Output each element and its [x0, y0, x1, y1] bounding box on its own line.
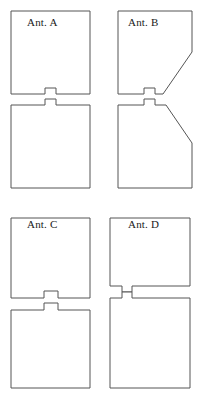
antenna-panel-c: Ant. C [0, 202, 100, 404]
antenna-diagram-d [100, 202, 200, 404]
antenna-panel-d: Ant. D [100, 202, 200, 404]
antenna-panel-a: Ant. A [0, 0, 100, 202]
lower-patch-outline-b [118, 99, 192, 188]
antenna-label-d: Ant. D [128, 218, 159, 230]
antenna-diagram-c [0, 202, 100, 404]
antenna-diagram-b [100, 0, 200, 202]
lower-patch-outline-c [11, 303, 90, 388]
antenna-figure: Ant. A Ant. B Ant. C Ant. D [0, 0, 201, 404]
lower-patch-outline-d [110, 292, 190, 388]
antenna-label-a: Ant. A [27, 16, 58, 28]
antenna-diagram-a [0, 0, 100, 202]
antenna-panel-b: Ant. B [100, 0, 200, 202]
lower-patch-outline-a [11, 99, 90, 188]
upper-patch-outline-c [11, 218, 90, 298]
antenna-label-b: Ant. B [128, 16, 159, 28]
antenna-label-c: Ant. C [27, 218, 58, 230]
